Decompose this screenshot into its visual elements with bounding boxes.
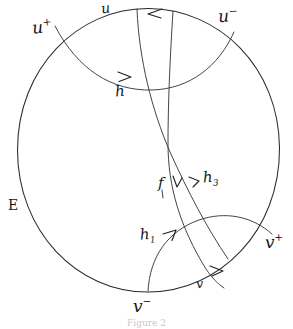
label-curve-u: u bbox=[100, 0, 111, 15]
label-u-minus: u− bbox=[217, 5, 238, 25]
label-u-plus-sign: + bbox=[42, 15, 52, 28]
arrowhead-h bbox=[118, 72, 131, 82]
label-h3-subscript: 3 bbox=[213, 177, 219, 187]
arrowhead-h3 bbox=[189, 177, 199, 187]
label-curve-v: v bbox=[195, 277, 204, 291]
curve-v bbox=[168, 11, 224, 288]
figure-caption: Figure 2 bbox=[0, 318, 293, 328]
label-h3-base: h bbox=[202, 168, 213, 187]
arrowhead-f bbox=[173, 176, 182, 187]
label-v-minus: v− bbox=[133, 296, 151, 315]
label-curve-h1: h1 bbox=[139, 226, 156, 245]
figure-container: u+ u− v+ v− u v h h1 h3 f E Figure 2 bbox=[0, 0, 293, 329]
boundary-circle-E bbox=[18, 8, 280, 292]
label-v-minus-sign: − bbox=[143, 295, 152, 307]
label-v-plus: v+ bbox=[265, 232, 284, 252]
diagram-canvas bbox=[0, 0, 293, 329]
label-curve-h: h bbox=[114, 84, 125, 100]
label-v-minus-base: v bbox=[133, 296, 143, 316]
arrowhead-u-top bbox=[148, 9, 162, 18]
label-u-minus-sign: − bbox=[228, 4, 238, 17]
geodesic-arc-h1 bbox=[148, 216, 272, 291]
label-v-plus-sign: + bbox=[274, 231, 283, 243]
label-curve-h3: h3 bbox=[202, 169, 218, 188]
label-boundary-E: E bbox=[8, 198, 18, 212]
label-h1-subscript: 1 bbox=[150, 234, 156, 244]
label-curve-f: f bbox=[158, 176, 164, 191]
label-u-plus: u+ bbox=[31, 16, 53, 37]
geodesic-arc-h bbox=[55, 26, 234, 90]
